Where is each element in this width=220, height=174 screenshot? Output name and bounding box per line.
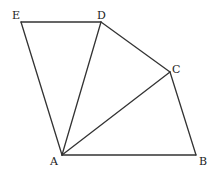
label-B: B [199,155,207,168]
label-C: C [172,63,180,76]
geometry-diagram: A B C D E [0,0,220,174]
segments [21,22,196,155]
label-D: D [97,9,106,22]
label-A: A [49,155,59,168]
label-E: E [12,9,20,22]
segment-EA [21,22,62,155]
segment-BC [170,72,196,155]
segment-CD [101,22,170,72]
segment-AC [62,72,170,155]
segment-AD [62,22,101,155]
